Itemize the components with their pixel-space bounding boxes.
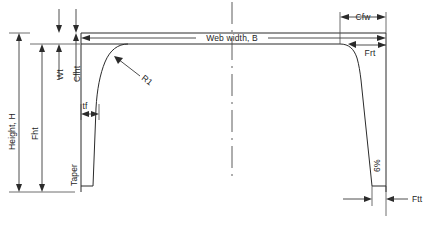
label-taper-group: Taper xyxy=(69,164,79,186)
label-slope-group: 6% xyxy=(372,159,382,172)
cfht-arrowhead-up xyxy=(73,33,79,41)
slope-6-percent-label: 6% xyxy=(372,159,382,172)
engineering-drawing-canvas: Height, H Fht Wt Cfht Taper xyxy=(0,0,424,226)
dimension-r1: R1 xyxy=(114,56,155,88)
height-h-arrowhead-bottom xyxy=(16,184,22,192)
fht-label: Fht xyxy=(30,127,40,140)
r1-arrowhead xyxy=(114,56,123,64)
taper-label: Taper xyxy=(69,164,79,186)
tf-arrowhead-left xyxy=(81,111,89,117)
web-width-b-label: Web width, B xyxy=(206,33,258,43)
fht-arrowhead-top xyxy=(39,44,45,52)
ftt-label: Ftt xyxy=(412,194,423,204)
ftt-arrowhead-left xyxy=(364,196,372,202)
height-h-arrowhead-top xyxy=(16,33,22,41)
dimension-ftt: Ftt xyxy=(343,186,423,216)
cfht-top-arrowhead xyxy=(73,25,79,33)
height-h-label: Height, H xyxy=(7,113,17,150)
dimension-fht: Fht xyxy=(30,44,72,192)
left-fillet-curve-r1 xyxy=(96,44,128,108)
cfw-label: Cfw xyxy=(355,12,371,22)
tf-label: tf xyxy=(82,101,88,111)
top-down-arrows xyxy=(56,9,79,33)
wt-top-arrowhead xyxy=(56,25,62,33)
profile-outline xyxy=(81,33,386,192)
right-flange-inner-face xyxy=(361,80,372,186)
left-flange-inner-face xyxy=(93,108,96,186)
wt-label: Wt xyxy=(55,69,65,80)
web-width-arrowhead-left xyxy=(81,35,90,41)
dimension-frt: Frt xyxy=(348,41,386,58)
web-width-arrowhead-right xyxy=(377,35,386,41)
tf-arrowhead-right xyxy=(91,111,99,117)
cfw-arrowhead-left xyxy=(340,14,349,20)
frt-label: Frt xyxy=(365,48,376,58)
cfw-arrowhead-right xyxy=(377,14,386,20)
r1-label: R1 xyxy=(140,73,155,88)
dimension-height-h: Height, H xyxy=(7,33,75,192)
frt-arrowhead-outer xyxy=(378,42,386,48)
r1-leader-line xyxy=(118,59,140,76)
wt-arrowhead-up xyxy=(56,44,62,52)
dimension-wt: Wt xyxy=(55,44,65,80)
right-fillet-curve-frt xyxy=(340,44,361,80)
cross-section-diagram: Height, H Fht Wt Cfht Taper xyxy=(0,0,424,226)
cfht-label: Cfht xyxy=(72,65,82,82)
fht-arrowhead-bottom xyxy=(39,184,45,192)
